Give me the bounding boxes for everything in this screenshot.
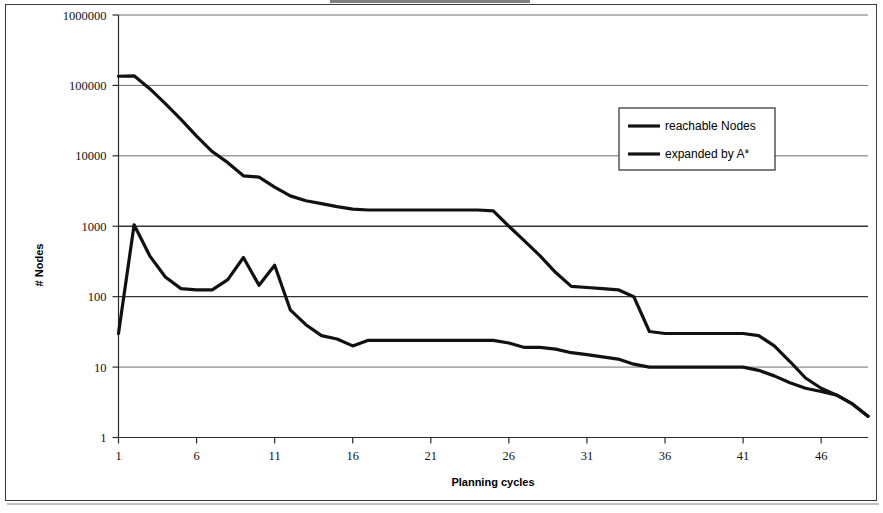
x-axis-tick-label: 36: [659, 449, 672, 463]
y-axis-ticks: [113, 15, 119, 438]
x-axis-title: Planning cycles: [451, 476, 534, 488]
x-axis-tick-label: 41: [737, 449, 750, 463]
x-axis-tick-label: 26: [503, 449, 516, 463]
y-axis-tick-label: 10000: [75, 149, 106, 163]
x-axis-tick-label: 1: [115, 449, 121, 463]
legend-label-reachable-nodes: reachable Nodes: [665, 119, 756, 133]
x-axis-tick-label: 16: [346, 449, 359, 463]
y-axis-tick-labels: 1101001000100001000001000000: [63, 9, 107, 446]
legend-label-expanded-by-a-star: expanded by A*: [665, 147, 749, 161]
line-chart: 1101001000100001000001000000 16111621263…: [0, 0, 883, 513]
screenshot-root: 1101001000100001000001000000 16111621263…: [0, 0, 883, 513]
x-axis-tick-label: 6: [193, 449, 199, 463]
x-axis-tick-labels: 161116212631364146: [115, 449, 827, 463]
chart-legend: reachable Nodes expanded by A*: [619, 108, 775, 170]
gridlines: [119, 15, 869, 438]
y-axis-tick-label: 100: [88, 290, 107, 304]
y-axis-tick-label: 1000000: [63, 9, 107, 23]
y-axis-tick-label: 10: [94, 361, 107, 375]
y-axis-tick-label: 1000: [82, 220, 107, 234]
y-axis-tick-label: 100000: [69, 79, 107, 93]
y-axis-tick-label: 1: [100, 431, 106, 445]
x-axis-tick-label: 21: [425, 449, 438, 463]
y-axis-title: # Nodes: [33, 244, 45, 287]
x-axis-ticks: [119, 438, 822, 444]
x-axis-tick-label: 31: [581, 449, 594, 463]
x-axis-tick-label: 46: [815, 449, 828, 463]
x-axis-tick-label: 11: [269, 449, 281, 463]
series-line-expanded-by-a: [119, 225, 869, 417]
